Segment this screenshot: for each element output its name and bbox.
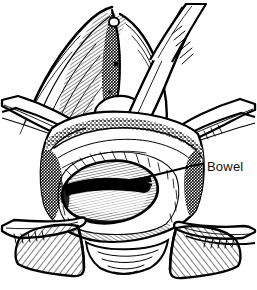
surgical-illustration-figure: Bowel [0, 0, 257, 290]
surgical-drape-left [16, 225, 84, 276]
tissue-marking-dot [114, 62, 119, 67]
surgical-drape-right [170, 226, 240, 278]
suture-knot [109, 18, 119, 27]
bowel-label: Bowel [207, 159, 243, 174]
illustration-canvas: Bowel [0, 0, 257, 290]
tissue-marking-dot-2 [108, 90, 111, 93]
